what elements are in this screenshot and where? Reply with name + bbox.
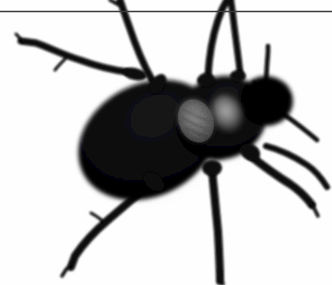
photograph-canvas: Black beetle on white background <box>0 0 332 285</box>
head <box>239 76 293 126</box>
beetle-photograph <box>0 0 332 285</box>
